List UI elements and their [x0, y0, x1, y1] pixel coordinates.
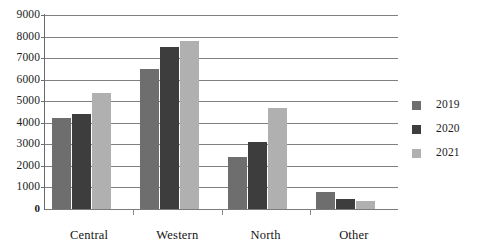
bar [268, 108, 287, 209]
x-axis-category-label: Western [133, 228, 221, 242]
y-axis-tick [41, 80, 45, 81]
y-axis-tick-label: 6000 [0, 74, 40, 86]
y-axis-tick-label: 2000 [0, 160, 40, 172]
y-axis-tick [41, 166, 45, 167]
bar [248, 142, 267, 209]
bar-group [140, 15, 199, 209]
y-axis-tick-label: 1000 [0, 181, 40, 193]
bar-group [228, 15, 287, 209]
x-axis-tick [222, 210, 223, 215]
y-axis-tick [41, 58, 45, 59]
y-axis-tick-label: 9000 [0, 9, 40, 21]
bar [180, 41, 199, 209]
bar [92, 93, 111, 209]
bar [228, 157, 247, 209]
bar [72, 114, 91, 209]
legend-label: 2020 [436, 121, 460, 135]
bar [160, 47, 179, 209]
y-axis-tick [41, 101, 45, 102]
bar [52, 118, 71, 209]
y-axis-tick-label: 7000 [0, 52, 40, 64]
y-axis-tick-label: 3000 [0, 138, 40, 150]
bar-group [52, 15, 111, 209]
x-axis-tick [310, 210, 311, 215]
x-axis-category-label: Central [45, 228, 133, 242]
y-axis-tick-label: 8000 [0, 31, 40, 43]
y-axis-tick-label: 4000 [0, 117, 40, 129]
legend-swatch-icon [412, 149, 421, 158]
x-axis-category-label: North [222, 228, 310, 242]
x-axis-category-label: Other [310, 228, 398, 242]
bar [356, 201, 375, 209]
bar [336, 199, 355, 209]
bar-group [316, 15, 375, 209]
legend-swatch-icon [412, 125, 421, 134]
y-axis-line [44, 14, 45, 210]
y-axis-tick [41, 15, 45, 16]
y-axis-tick [41, 144, 45, 145]
bar [316, 192, 335, 209]
y-axis-tick-label: 5000 [0, 95, 40, 107]
y-axis-tick-label: 0 [0, 203, 40, 215]
bar-chart: 0100020003000400050006000700080009000 Ce… [0, 0, 478, 251]
bar [140, 69, 159, 209]
y-axis: 0100020003000400050006000700080009000 [0, 0, 40, 251]
plot-area [45, 15, 398, 209]
legend-label: 2019 [436, 97, 460, 111]
y-axis-tick [41, 37, 45, 38]
y-axis-tick [41, 187, 45, 188]
legend-label: 2021 [436, 145, 460, 159]
y-axis-tick [41, 123, 45, 124]
legend-swatch-icon [412, 101, 421, 110]
x-axis-tick [133, 210, 134, 215]
